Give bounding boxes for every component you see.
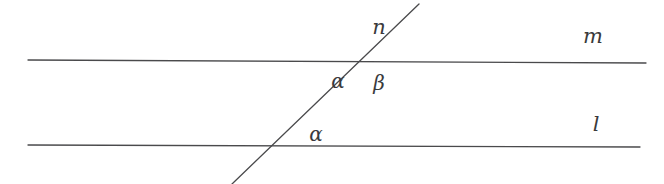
line-m bbox=[28, 60, 646, 63]
line-l bbox=[28, 145, 640, 147]
line-label-m: m bbox=[583, 26, 603, 47]
line-label-l: l bbox=[593, 114, 600, 135]
geometry-figure: m l n α β α bbox=[0, 0, 664, 184]
angle-label-beta-upper: β bbox=[373, 73, 385, 93]
line-n-transversal bbox=[232, 4, 419, 184]
line-label-n: n bbox=[372, 17, 386, 38]
angle-label-alpha-lower: α bbox=[309, 124, 323, 144]
angle-label-alpha-upper: α bbox=[331, 71, 345, 91]
